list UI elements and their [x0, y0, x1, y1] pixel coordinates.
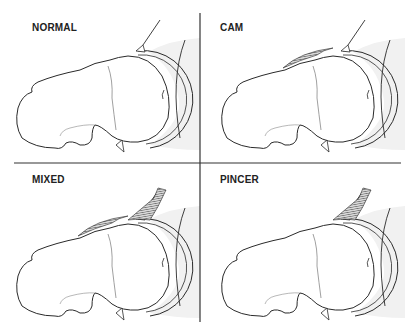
- panel-label-normal: NORMAL: [32, 22, 77, 33]
- diagram-svg: [0, 0, 414, 333]
- panel-normal: [17, 20, 200, 152]
- panel-cam: [222, 20, 405, 152]
- panel-label-pincer: PINCER: [220, 174, 259, 185]
- panel-pincer: [222, 188, 405, 320]
- panel-label-cam: CAM: [220, 22, 243, 33]
- hip-impingement-diagram: NORMAL CAM MIXED PINCER: [0, 0, 414, 333]
- panel-label-mixed: MIXED: [32, 174, 65, 185]
- panel-mixed: [17, 188, 200, 320]
